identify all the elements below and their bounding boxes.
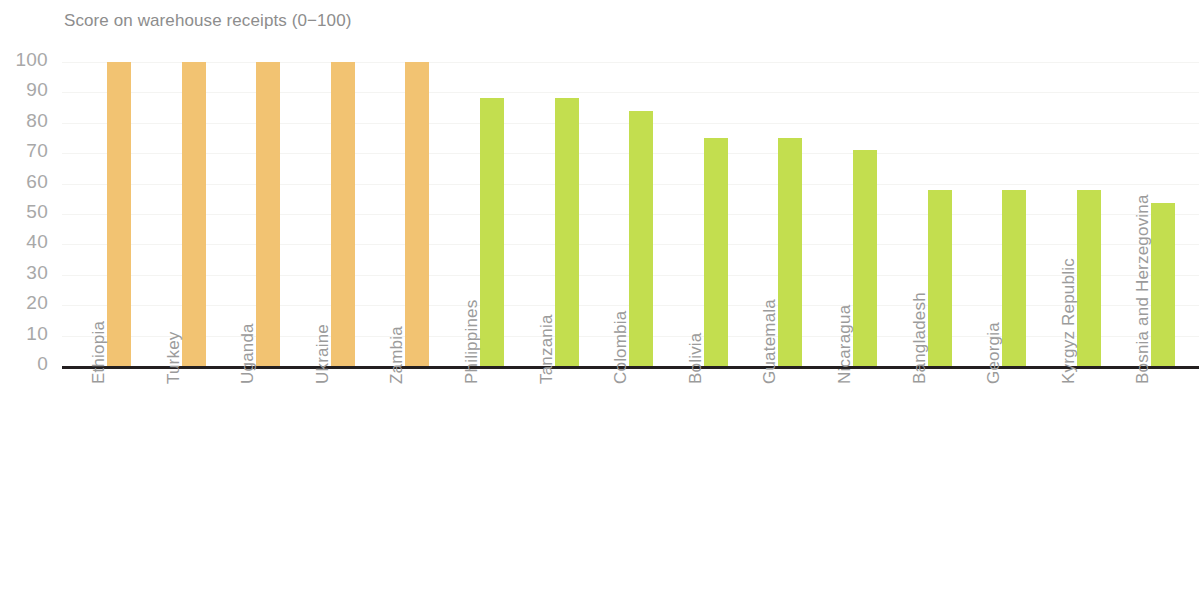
x-axis-label-text: Ethiopia	[89, 321, 109, 384]
x-axis-label: Nicaragua	[853, 384, 877, 614]
x-axis-label-text: Bolivia	[686, 333, 706, 384]
y-axis-tick-label: 70	[0, 140, 48, 162]
x-axis-label-text: Uganda	[238, 323, 258, 384]
gridline	[62, 62, 1199, 63]
y-axis-tick-label: 60	[0, 171, 48, 193]
y-axis-tick-label: 100	[0, 49, 48, 71]
x-axis-label: Bangladesh	[928, 384, 952, 614]
x-axis-label-text: Kyrgyz Republic	[1059, 258, 1079, 384]
x-axis-label: Georgia	[1002, 384, 1026, 614]
x-axis-label-text: Turkey	[164, 331, 184, 384]
y-axis-tick-label: 90	[0, 79, 48, 101]
x-axis-label: Tanzania	[555, 384, 579, 614]
x-axis-label: Bosnia and Herzegovina	[1151, 384, 1175, 614]
x-axis-label-text: Georgia	[984, 322, 1004, 384]
bar[interactable]	[405, 62, 429, 366]
x-axis-label: Ukraine	[331, 384, 355, 614]
bar[interactable]	[182, 62, 206, 366]
y-axis-tick-label: 0	[0, 353, 48, 375]
x-axis-label-text: Bangladesh	[910, 292, 930, 384]
x-axis-label: Uganda	[256, 384, 280, 614]
bar-chart: Score on warehouse receipts (0−100) 0102…	[0, 0, 1199, 614]
x-axis-label: Bolivia	[704, 384, 728, 614]
bar[interactable]	[1077, 190, 1101, 366]
bar[interactable]	[107, 62, 131, 366]
x-axis-label: Ethiopia	[107, 384, 131, 614]
y-axis-tick-label: 80	[0, 110, 48, 132]
x-axis-label-text: Zambia	[387, 326, 407, 384]
x-axis-label-text: Nicaragua	[835, 305, 855, 384]
x-axis-label: Guatemala	[778, 384, 802, 614]
x-axis-label-text: Ukraine	[313, 324, 333, 384]
y-axis-tick-label: 40	[0, 231, 48, 253]
bar[interactable]	[256, 62, 280, 366]
x-axis-label: Turkey	[182, 384, 206, 614]
x-axis-label-text: Tanzania	[537, 314, 557, 384]
x-axis-label: Philippines	[480, 384, 504, 614]
x-axis-label-text: Guatemala	[760, 299, 780, 384]
bar[interactable]	[853, 150, 877, 366]
x-axis-label-text: Philippines	[462, 300, 482, 384]
y-axis-tick-label: 20	[0, 292, 48, 314]
y-axis-tick-label: 10	[0, 323, 48, 345]
bar[interactable]	[704, 138, 728, 366]
plot-area: 0102030405060708090100 EthiopiaTurkeyUga…	[0, 0, 1199, 614]
x-axis-label: Zambia	[405, 384, 429, 614]
bar[interactable]	[555, 98, 579, 366]
bar[interactable]	[331, 62, 355, 366]
bar[interactable]	[1002, 190, 1026, 366]
bar[interactable]	[928, 190, 952, 366]
x-axis-label-text: Colombia	[611, 311, 631, 384]
y-axis-tick-label: 30	[0, 262, 48, 284]
bar[interactable]	[629, 111, 653, 366]
x-axis-label-text: Bosnia and Herzegovina	[1133, 194, 1153, 384]
x-axis-label: Colombia	[629, 384, 653, 614]
bar[interactable]	[778, 138, 802, 366]
y-axis-tick-label: 50	[0, 201, 48, 223]
x-axis-label: Kyrgyz Republic	[1077, 384, 1101, 614]
bar[interactable]	[1151, 203, 1175, 366]
y-axis: 0102030405060708090100	[0, 0, 48, 614]
bar[interactable]	[480, 98, 504, 366]
gridline	[62, 92, 1199, 93]
